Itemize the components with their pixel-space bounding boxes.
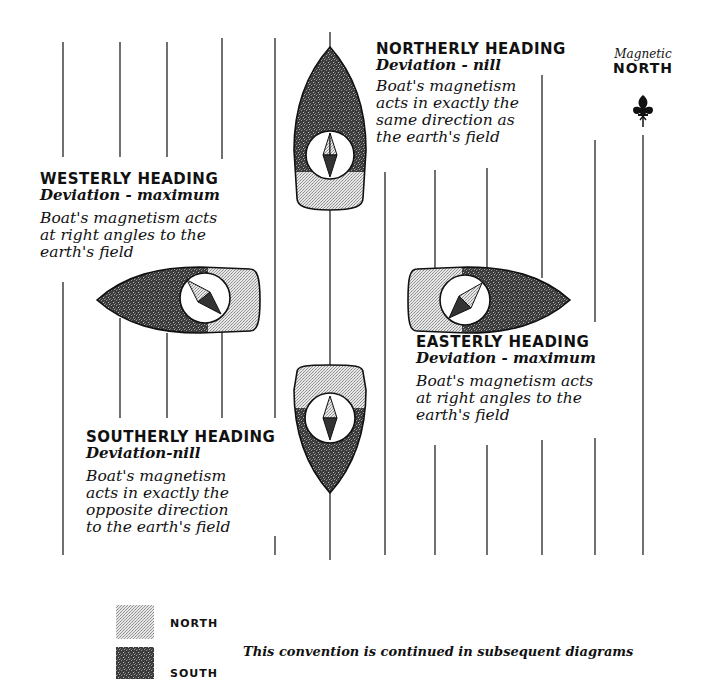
southerly-description: Boat's magnetism acts in exactly the opp… [86,468,275,536]
legend-swatch-north [116,605,154,639]
legend-label-south: SOUTH [170,667,218,679]
boat-northerly [290,40,370,217]
westerly-deviation: Deviation - maximum [40,188,220,204]
boat-southerly [290,360,370,498]
boat-westerly [90,260,268,340]
northerly-deviation: Deviation - nill [376,58,566,74]
legend-label-north: NORTH [170,617,218,630]
easterly-deviation: Deviation - maximum [416,351,596,367]
southerly-heading-block: SOUTHERLY HEADING Deviation-nill Boat's … [86,430,277,536]
fleur-de-lis-north-icon [633,95,653,127]
legend-swatch-south [116,647,154,679]
legend-note: This convention is continued in subseque… [243,644,633,659]
easterly-description: Boat's magnetism acts at right angles to… [416,373,596,424]
magnetic-deviation-diagram [0,0,710,679]
westerly-description: Boat's magnetism acts at right angles to… [40,210,220,261]
northerly-description: Boat's magnetism acts in exactly the sam… [376,78,566,146]
magnetic-north-label: Magnetic NORTH [600,48,686,75]
westerly-heading-block: WESTERLY HEADING Deviation - maximum Boa… [40,172,220,261]
southerly-deviation: Deviation-nill [86,446,275,462]
easterly-heading-block: EASTERLY HEADING Deviation - maximum Boa… [416,335,600,424]
boat-easterly [400,260,577,340]
northerly-heading-block: NORTHERLY HEADING Deviation - nill Boat'… [376,42,566,146]
